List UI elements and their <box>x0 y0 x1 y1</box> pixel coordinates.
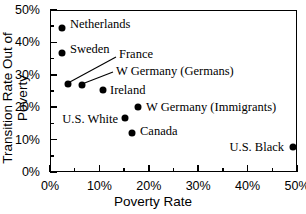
leader-line-france <box>68 57 116 83</box>
x-axis-title: Poverty Rate <box>0 194 306 209</box>
leader-line-w-germany-germans <box>82 72 113 84</box>
leader-lines <box>0 0 306 214</box>
scatter-chart: 0%10%20%30%40%50%0%10%20%30%40%50%Nether… <box>0 0 306 214</box>
y-axis-title: Transition Rate Out of Poverty <box>0 13 30 183</box>
